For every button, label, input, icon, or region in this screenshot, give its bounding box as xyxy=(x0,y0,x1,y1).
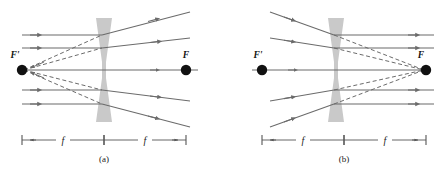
focal-label-far-b: F xyxy=(417,50,425,60)
ray-in-upper-outer-b xyxy=(270,12,334,35)
ray-arrow-in-lower-inner-b xyxy=(284,97,294,99)
focal-label-near-a: F' xyxy=(10,50,20,60)
virtual-ray-upper-inner-a xyxy=(24,48,102,70)
ray-in-upper-inner-b xyxy=(270,38,334,48)
ray-in-lower-inner-b xyxy=(270,90,334,101)
ray-out-lower-outer-a xyxy=(102,104,190,127)
ray-arrow-in-upper-outer-b xyxy=(284,17,294,21)
focal-point-near-b xyxy=(257,65,267,75)
virtual-ray-upper-outer-b xyxy=(334,35,424,70)
ray-out-upper-outer-a xyxy=(102,12,190,35)
virtual-ray-upper-outer-a xyxy=(24,35,102,70)
ray-arrow-in-lower-outer-b xyxy=(284,118,294,122)
ray-arrow-out-lower-outer-a xyxy=(148,116,158,119)
panel-caption-a: (a) xyxy=(99,154,109,164)
ray-out-upper-inner-a xyxy=(102,38,190,48)
focal-point-far-b xyxy=(421,65,431,75)
focal-point-near-a xyxy=(17,65,27,75)
panel-a: F' F f f (a) xyxy=(10,12,198,164)
virtual-ray-upper-inner-b xyxy=(334,48,424,70)
panel-caption-b: (b) xyxy=(339,154,350,164)
ray-out-lower-inner-a xyxy=(102,90,190,101)
focal-point-far-a xyxy=(181,65,191,75)
ray-arrow-out-upper-inner-a xyxy=(150,41,160,42)
panel-b: F' F f f (b) xyxy=(252,12,434,164)
focal-label-near-b: F' xyxy=(253,50,263,60)
optics-figure: F' F f f (a) xyxy=(0,0,448,171)
ray-arrow-out-lower-inner-a xyxy=(150,96,160,97)
focal-length-scale-a: f f xyxy=(22,133,186,147)
ray-in-lower-outer-b xyxy=(270,104,334,127)
focal-label-far-a: F xyxy=(182,50,190,60)
focal-length-scale-b: f f xyxy=(262,133,426,147)
